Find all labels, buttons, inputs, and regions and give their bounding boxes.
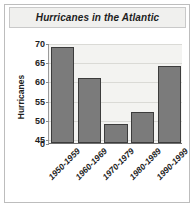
- chart-figure: Hurricanes in the Atlantic Hurricanes 04…: [0, 0, 195, 208]
- y-axis-title-text: Hurricanes: [16, 75, 26, 119]
- page-title: Hurricanes in the Atlantic: [36, 12, 159, 23]
- y-axis-tick-label: 65: [35, 59, 45, 68]
- y-axis-tick-mark: [46, 82, 49, 83]
- y-axis-tick-mark: [46, 44, 49, 45]
- y-axis-tick-label: 70: [35, 40, 45, 49]
- y-axis-tick-label: 50: [35, 116, 45, 125]
- y-axis-tick-label: 60: [35, 78, 45, 87]
- bar: [51, 47, 74, 143]
- plot-area: [48, 44, 182, 144]
- y-axis-tick-mark: [46, 144, 49, 145]
- gridline: [49, 44, 182, 45]
- y-axis-tick-mark: [46, 121, 49, 122]
- chart-title-band: Hurricanes in the Atlantic: [9, 7, 186, 28]
- x-axis-tick-labels: 1950-19591960-19691970-19791980-19891990…: [0, 146, 195, 208]
- y-axis-tick-label: 55: [35, 97, 45, 106]
- y-axis-tick-labels: 0455055606570: [28, 40, 47, 148]
- y-axis-tick-mark: [46, 140, 49, 141]
- y-axis-tick-label: 45: [35, 136, 45, 145]
- y-axis-tick-mark: [46, 63, 49, 64]
- y-axis-tick-mark: [46, 102, 49, 103]
- y-axis-title: Hurricanes: [14, 54, 28, 140]
